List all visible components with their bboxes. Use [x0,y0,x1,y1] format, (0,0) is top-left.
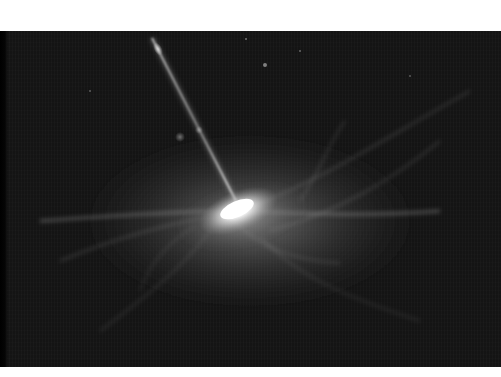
left-edge-shadow [0,31,8,367]
film-grain [0,31,501,367]
bottom-white-band [0,367,501,377]
quasar-image [0,31,501,367]
top-white-band [0,0,501,31]
